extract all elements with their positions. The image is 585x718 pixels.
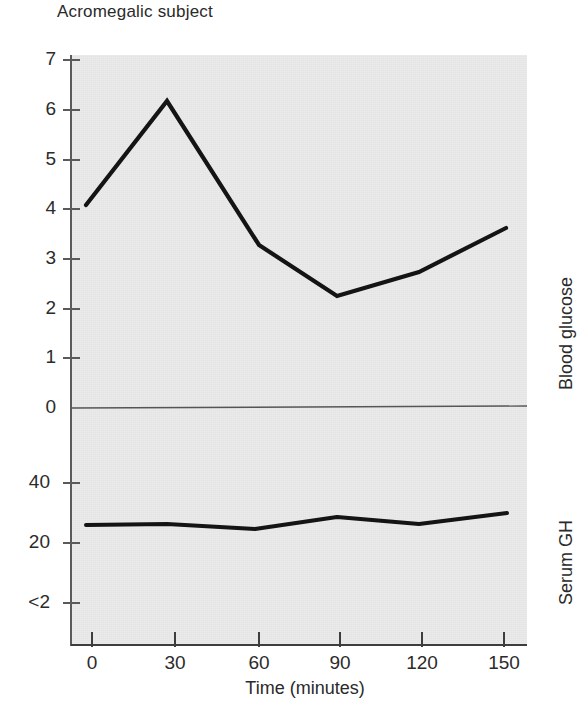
lower-ytick-label-lt2: <2: [6, 591, 50, 613]
upper-ytick-label-0: 0: [12, 396, 56, 418]
upper-ytick-label-4: 4: [12, 197, 56, 219]
serum-gh-axis-title: Serum GH: [556, 520, 577, 605]
blood-glucose-axis-title: Blood glucose: [556, 277, 577, 390]
blood-glucose-series-line: [86, 101, 506, 296]
upper-ytick-label-2: 2: [12, 297, 56, 319]
upper-ytick-label-3: 3: [12, 247, 56, 269]
xtick-label-60: 60: [229, 652, 289, 674]
x-axis-title: Time (minutes): [175, 678, 435, 699]
upper-ytick-label-7: 7: [12, 48, 56, 70]
acromegalic-subject-chart-figure: Acromegalic subject: [0, 0, 585, 718]
lower-ytick-label-20: 20: [6, 531, 50, 553]
upper-ytick-label-6: 6: [12, 98, 56, 120]
serum-gh-series-line: [86, 513, 507, 529]
upper-ytick-label-5: 5: [12, 148, 56, 170]
plot-svg: [0, 0, 585, 718]
xtick-label-120: 120: [392, 652, 452, 674]
xtick-label-150: 150: [474, 652, 534, 674]
xtick-label-0: 0: [62, 652, 122, 674]
upper-ytick-label-1: 1: [12, 346, 56, 368]
lower-ytick-label-40: 40: [6, 471, 50, 493]
panel-separator-line: [71, 406, 527, 408]
xtick-label-30: 30: [145, 652, 205, 674]
xtick-label-90: 90: [310, 652, 370, 674]
